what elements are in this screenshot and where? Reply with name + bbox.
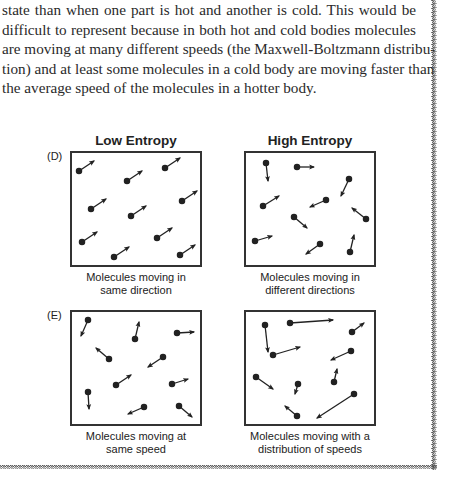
caption-same-direction: Molecules moving in same direction: [56, 271, 216, 296]
caption-line: Molecules moving with a: [230, 430, 390, 443]
caption-line: same speed: [56, 443, 216, 456]
molecules-different-directions-diagram: [244, 151, 376, 267]
paragraph-line: state than when one part is hot and anot…: [2, 0, 416, 20]
caption-line: Molecules moving at: [56, 430, 216, 443]
row-label-e: (E): [47, 309, 62, 321]
caption-line: Molecules moving in: [230, 271, 390, 284]
molecules-distribution-of-speeds-diagram: [244, 310, 376, 426]
molecules-same-speed-diagram: [70, 310, 202, 426]
caption-distribution-of-speeds: Molecules moving with a distribution of …: [230, 430, 390, 455]
molecules-same-direction-diagram: [70, 151, 202, 267]
paragraph-line: the average speed of the molecules in a …: [2, 78, 416, 98]
caption-same-speed: Molecules moving at same speed: [56, 430, 216, 455]
column-title-high-entropy: High Entropy: [244, 133, 376, 148]
caption-line: same direction: [56, 284, 216, 297]
body-paragraph: state than when one part is hot and anot…: [2, 0, 416, 98]
caption-line: different directions: [230, 284, 390, 297]
decorative-border-bottom: [0, 463, 437, 470]
paragraph-line: difficult to represent because in both h…: [2, 20, 416, 40]
row-label-d: (D): [47, 150, 62, 162]
column-title-low-entropy: Low Entropy: [70, 133, 202, 148]
caption-different-directions: Molecules moving in different directions: [230, 271, 390, 296]
caption-line: distribution of speeds: [230, 443, 390, 456]
caption-line: Molecules moving in: [56, 271, 216, 284]
paragraph-line: tion) and at least some molecules in a c…: [2, 59, 416, 79]
paragraph-line: are moving at many different speeds (the…: [2, 39, 416, 59]
decorative-border-right: [430, 0, 437, 470]
